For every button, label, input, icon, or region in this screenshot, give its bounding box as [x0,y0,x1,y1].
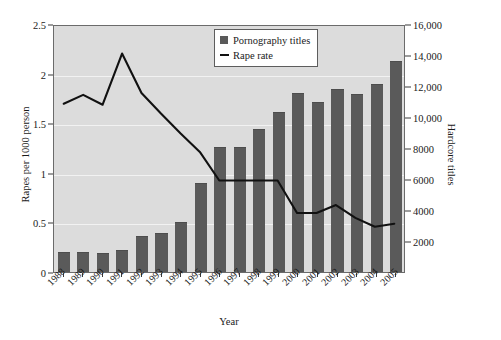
y-axis-left-title: Rapes per 1000 person [20,75,31,235]
x-axis-ticks: 1988198919901991199219931994199519961997… [53,273,405,318]
x-axis-title: Year [53,316,405,327]
y-axis-right-tick-mark [405,56,411,57]
y-axis-left-tick-label: 2 [41,69,46,80]
y-axis-right-tick-label: 8000 [413,144,434,155]
y-axis-right-tick-label: 2000 [413,237,434,248]
y-axis-right-tick-label: 16,000 [413,20,442,31]
y-axis-right-tick-mark [405,25,411,26]
y-axis-left-tick-mark [48,74,53,75]
legend-line-swatch-icon [220,54,229,56]
legend-square-swatch-icon [220,36,228,44]
y-axis-left-tick-label: 0 [41,268,46,279]
y-axis-right-tick-mark [405,87,411,88]
y-axis-right-tick-label: 10,000 [413,113,442,124]
y-axis-right-tick-mark [405,149,411,150]
y-axis-right-tick-mark [405,242,411,243]
y-axis-right-tick-label: 6000 [413,175,434,186]
y-axis-left-tick-mark [48,25,53,26]
y-axis-left-tick-mark [48,124,53,125]
chart-figure: 00.511.522.5 Rapes per 1000 person 20004… [0,0,501,340]
y-axis-right-title: Hardcore titles [446,75,457,235]
chart-legend: Pornography titles Rape rate [214,29,318,67]
y-axis-right-tick-mark [405,211,411,212]
y-axis-left-tick-label: 1 [41,168,46,179]
y-axis-left-tick-label: 2.5 [33,20,46,31]
y-axis-left-tick-mark [48,173,53,174]
legend-item-rape-rate: Rape rate [220,48,310,62]
y-axis-right-tick-label: 4000 [413,206,434,217]
legend-item-pornography-titles: Pornography titles [220,33,310,47]
legend-label-rape-rate: Rape rate [233,50,273,61]
y-axis-right-tick-label: 12,000 [413,82,442,93]
legend-label-pornography-titles: Pornography titles [233,35,310,46]
y-axis-left-tick-mark [48,223,53,224]
y-axis-right-tick-mark [405,118,411,119]
y-axis-right-tick-label: 14,000 [413,51,442,62]
y-axis-right-tick-mark [405,180,411,181]
y-axis-left-tick-label: 1.5 [33,119,46,130]
y-axis-left-tick-label: 0.5 [33,218,46,229]
